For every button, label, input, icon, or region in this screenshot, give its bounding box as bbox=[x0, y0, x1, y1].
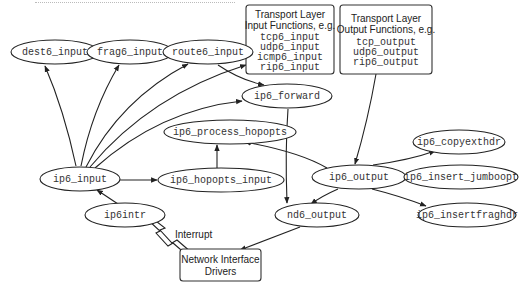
transport-input-title-2: Input Functions, e.g. bbox=[245, 20, 336, 31]
network-drivers-box: Network Interface Drivers bbox=[180, 249, 261, 281]
edge-nd6-output-to-drivers bbox=[240, 227, 300, 250]
transport-output-fn: rip6_output bbox=[353, 57, 419, 68]
transport-input-fn: rip6_input bbox=[260, 62, 320, 73]
transport-input-title-1: Transport Layer bbox=[255, 9, 326, 20]
node-route6-input: route6_input bbox=[163, 40, 253, 64]
transport-output-title-1: Transport Layer bbox=[351, 13, 422, 24]
ipv6-call-graph: Transport Layer Input Functions, e.g. tc… bbox=[0, 0, 523, 290]
node-label: ip6_insertfraghdr bbox=[416, 210, 518, 221]
node-label: ip6_output bbox=[329, 172, 389, 183]
node-label: route6_input bbox=[172, 47, 244, 58]
node-label: ip6_insert_jumboopt bbox=[404, 172, 518, 183]
edge-ip6-input-to-dest6-input bbox=[45, 66, 76, 166]
node-ip6-input: ip6_input bbox=[40, 167, 120, 191]
node-label: ip6_forward bbox=[254, 91, 320, 102]
network-drivers-title-1: Network Interface bbox=[181, 254, 260, 265]
edges bbox=[45, 64, 435, 256]
node-label: nd6_output bbox=[287, 210, 347, 221]
edge-ip6-output-to-insertfraghdr bbox=[372, 189, 426, 206]
edge-ip6-input-to-frag6-input bbox=[81, 65, 119, 166]
node-label: frag6_input bbox=[97, 47, 163, 58]
node-nd6-output: nd6_output bbox=[275, 203, 359, 227]
node-label: ip6_copyexthdr bbox=[417, 137, 501, 148]
node-ip6-copyexthdr: ip6_copyexthdr bbox=[413, 130, 505, 154]
edge-ip6-output-to-copyexthdr bbox=[373, 151, 435, 165]
node-ip6intr: ip6intr bbox=[85, 203, 165, 227]
transport-output-box: Transport Layer Output Functions, e.g. t… bbox=[337, 5, 435, 74]
edge-ip6intr-to-ip6-input bbox=[97, 190, 118, 204]
edge-ip6-forward-to-nd6-output bbox=[286, 109, 288, 203]
node-dest6-input: dest6_input bbox=[11, 40, 99, 64]
network-drivers-title-2: Drivers bbox=[205, 266, 237, 277]
node-ip6-insert-jumboopt: ip6_insert_jumboopt bbox=[404, 165, 518, 189]
interrupt-label: Interrupt bbox=[175, 229, 212, 240]
edge-ip6-output-to-nd6-output bbox=[311, 189, 338, 204]
transport-input-box: Transport Layer Input Functions, e.g. tc… bbox=[245, 5, 336, 74]
node-label: ip6_input bbox=[53, 174, 107, 185]
edge-ip6-input-to-route6-input bbox=[86, 64, 188, 167]
node-ip6-insertfraghdr: ip6_insertfraghdr bbox=[416, 203, 518, 227]
node-label: dest6_input bbox=[22, 47, 88, 58]
edge-ip6-input-to-transport-input bbox=[90, 65, 246, 167]
node-ip6-forward: ip6_forward bbox=[242, 84, 332, 108]
node-ip6-process-hopopts: ip6_process_hopopts bbox=[164, 120, 296, 144]
node-ip6-output: ip6_output bbox=[312, 165, 406, 189]
node-label: ip6intr bbox=[104, 210, 146, 221]
node-label: ip6_process_hopopts bbox=[173, 127, 287, 138]
node-frag6-input: frag6_input bbox=[87, 40, 173, 64]
transport-output-title-2: Output Functions, e.g. bbox=[337, 24, 435, 35]
node-label: ip6_hopopts_input bbox=[170, 175, 272, 186]
edge-transport-output-to-ip6-output bbox=[355, 74, 376, 164]
node-ip6-hopopts-input: ip6_hopopts_input bbox=[158, 168, 284, 192]
